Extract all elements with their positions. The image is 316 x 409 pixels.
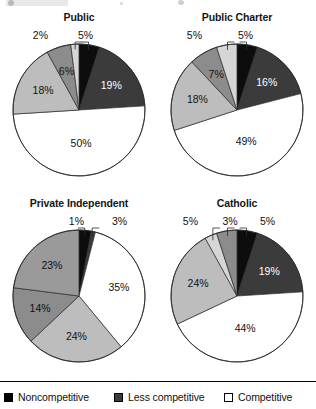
pie-leader-label: 3% — [112, 215, 127, 227]
legend-items: Noncompetitive Less competitive Competit… — [4, 391, 312, 403]
chart-legend: Noncompetitive Less competitive Competit… — [0, 381, 316, 409]
pie-svg: 19%50%18%6%5%2% — [0, 9, 158, 195]
pie-slice-label: 7% — [209, 68, 224, 80]
pie-slice-label: 35% — [108, 281, 129, 293]
chart-panel-public: Public 19%50%18%6%5%2% — [0, 9, 158, 195]
pie-slice-label: 24% — [188, 277, 209, 289]
pie-leader-label: 5% — [183, 215, 198, 227]
pie-leader-label: 2% — [33, 29, 48, 41]
header-dot-right-icon — [178, 0, 184, 5]
pie-svg: 35%24%14%23%3%1% — [0, 195, 158, 381]
pie-chart-public[interactable]: 19%50%18%6%5%2% — [0, 9, 158, 195]
pie-svg: 19%44%24%5%3%5% — [158, 195, 316, 381]
pie-leader-label: 5% — [187, 29, 202, 41]
pie-chart-public-charter[interactable]: 16%49%18%7%5%5% — [158, 9, 316, 195]
header-tick-mark — [120, 2, 123, 5]
legend-item-competitive[interactable]: Competitive — [224, 391, 312, 403]
legend-item-noncompetitive[interactable]: Noncompetitive — [4, 391, 114, 403]
chart-panel-catholic: Catholic 19%44%24%5%3%5% — [158, 195, 316, 381]
pie-slice-label: 23% — [41, 259, 62, 271]
pie-chart-private-independent[interactable]: 35%24%14%23%3%1% — [0, 195, 158, 381]
legend-swatch-icon — [4, 393, 13, 402]
pie-slice-label: 16% — [256, 76, 277, 88]
legend-item-less-competitive[interactable]: Less competitive — [114, 391, 224, 403]
pie-slice-label: 6% — [59, 65, 74, 77]
legend-swatch-icon — [114, 393, 123, 402]
pie-leader-label: 1% — [69, 215, 84, 227]
legend-label: Competitive — [238, 391, 292, 403]
pie-leader-label: 5% — [78, 29, 93, 41]
legend-label: Noncompetitive — [18, 391, 89, 403]
chart-panel-private-independent: Private Independent 35%24%14%23%3%1% — [0, 195, 158, 381]
pie-chart-catholic[interactable]: 19%44%24%5%3%5% — [158, 195, 316, 381]
pie-chart-grid: Public 19%50%18%6%5%2% Public Charter 16… — [0, 9, 316, 381]
pie-slice-label: 14% — [30, 302, 51, 314]
pie-slice-label: 24% — [66, 330, 87, 342]
pie-slice-label: 49% — [236, 135, 257, 147]
pie-slice-label: 44% — [235, 322, 256, 334]
pie-leader-label: 5% — [238, 29, 253, 41]
chart-panel-public-charter: Public Charter 16%49%18%7%5%5% — [158, 9, 316, 195]
clipped-header-strip — [0, 0, 316, 9]
header-dot-left-icon — [8, 0, 14, 6]
pie-slice-label: 18% — [33, 84, 54, 96]
pie-slice-label: 19% — [101, 79, 122, 91]
pie-svg: 16%49%18%7%5%5% — [158, 9, 316, 195]
pie-slice-label: 19% — [259, 265, 280, 277]
pie-slice-label: 18% — [187, 93, 208, 105]
header-smudge — [6, 0, 68, 6]
pie-leader-label: 5% — [260, 215, 275, 227]
legend-label: Less competitive — [128, 391, 205, 403]
pie-leader: 5% — [187, 29, 235, 50]
legend-swatch-icon — [224, 393, 233, 402]
pie-slice-label: 50% — [71, 137, 92, 149]
pie-leader-label: 3% — [222, 215, 237, 227]
